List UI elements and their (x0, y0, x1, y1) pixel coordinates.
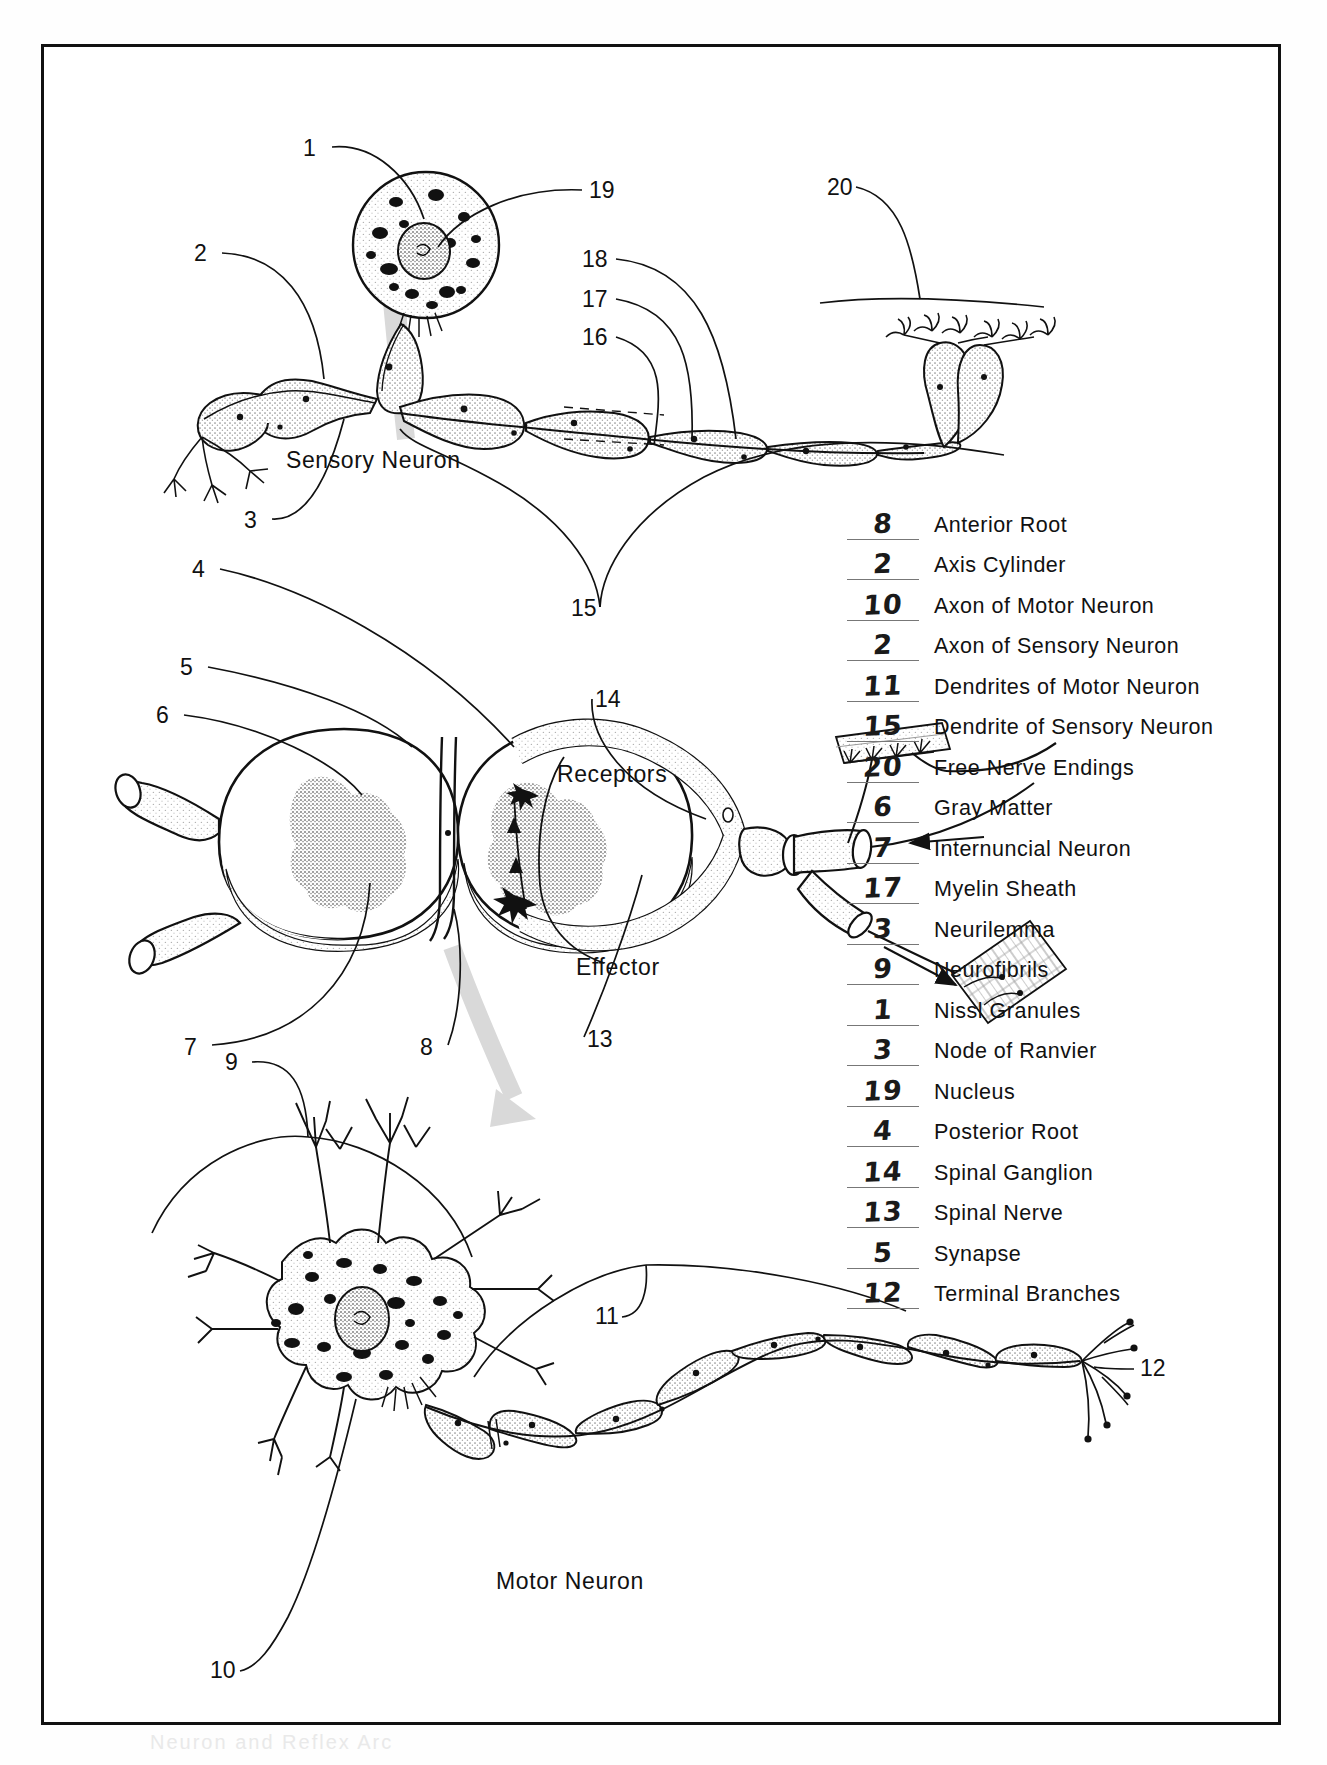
term-label: Node of Ranvier (922, 1039, 1097, 1069)
term-label: Spinal Nerve (922, 1201, 1063, 1231)
answer-row[interactable]: 4 Posterior Root (844, 1110, 1174, 1151)
answer-blank[interactable]: 10 (844, 590, 922, 624)
answer-row[interactable]: 9 Neurofibrils (844, 948, 1174, 989)
answer-row[interactable]: 2 Axis Cylinder (844, 543, 1174, 584)
answer-blank[interactable]: 17 (844, 873, 922, 907)
answer-value: 8 (843, 506, 923, 540)
answer-blank[interactable]: 1 (844, 995, 922, 1029)
nucleus-sensory (398, 223, 450, 279)
blank-rule (847, 701, 919, 702)
blank-rule (847, 539, 919, 540)
callout-7: 7 (184, 1034, 197, 1061)
answer-blank[interactable]: 6 (844, 792, 922, 826)
answer-blank[interactable]: 7 (844, 833, 922, 867)
blank-rule (847, 863, 919, 864)
answer-row[interactable]: 20 Free Nerve Endings (844, 745, 1174, 786)
sensory-axon-limb (400, 342, 1003, 465)
answer-value: 5 (843, 1235, 923, 1269)
term-label: Axis Cylinder (922, 553, 1066, 583)
term-label: Axon of Motor Neuron (922, 594, 1154, 624)
term-label: Dendrite of Sensory Neuron (922, 715, 1214, 745)
answer-blank[interactable]: 19 (844, 1076, 922, 1110)
blank-rule (847, 822, 919, 823)
callout-10: 10 (210, 1657, 236, 1684)
answer-blank[interactable]: 20 (844, 752, 922, 786)
answer-blank[interactable]: 5 (844, 1238, 922, 1272)
callout-9: 9 (225, 1049, 238, 1076)
answer-key-list: 8 Anterior Root 2 Axis Cylinder 10 Axon … (844, 502, 1174, 1312)
answer-value: 19 (843, 1073, 923, 1107)
answer-row[interactable]: 6 Gray Matter (844, 786, 1174, 827)
answer-row[interactable]: 1 Nissl Granules (844, 988, 1174, 1029)
answer-row[interactable]: 13 Spinal Nerve (844, 1191, 1174, 1232)
blank-rule (847, 1065, 919, 1066)
faint-footer-text: Neuron and Reflex Arc (150, 1731, 393, 1754)
answer-blank[interactable]: 2 (844, 630, 922, 664)
answer-blank[interactable]: 2 (844, 549, 922, 583)
term-label: Neurilemma (922, 918, 1055, 948)
flow-arrow-down (452, 947, 536, 1127)
answer-blank[interactable]: 14 (844, 1157, 922, 1191)
answer-blank[interactable]: 3 (844, 914, 922, 948)
answer-blank[interactable]: 8 (844, 509, 922, 543)
answer-value: 14 (843, 1154, 923, 1188)
answer-row[interactable]: 7 Internuncial Neuron (844, 826, 1174, 867)
callout-19: 19 (589, 177, 615, 204)
answer-value: 4 (843, 1114, 923, 1148)
answer-value: 1 (843, 992, 923, 1026)
blank-rule (847, 579, 919, 580)
answer-blank[interactable]: 12 (844, 1278, 922, 1312)
answer-row[interactable]: 12 Terminal Branches (844, 1272, 1174, 1313)
term-label: Spinal Ganglion (922, 1161, 1093, 1191)
answer-blank[interactable]: 4 (844, 1116, 922, 1150)
motor-neuron-caption: Motor Neuron (496, 1568, 644, 1595)
blank-rule (847, 1106, 919, 1107)
answer-value: 9 (843, 952, 923, 986)
term-label: Nissl Granules (922, 999, 1081, 1029)
term-label: Synapse (922, 1242, 1021, 1272)
callout-6: 6 (156, 702, 169, 729)
terminal-branches (1082, 1323, 1134, 1437)
blank-rule (847, 903, 919, 904)
callout-8: 8 (420, 1034, 433, 1061)
callout-1: 1 (303, 135, 316, 162)
answer-row[interactable]: 8 Anterior Root (844, 502, 1174, 543)
blank-rule (847, 984, 919, 985)
blank-rule (847, 660, 919, 661)
answer-row[interactable]: 17 Myelin Sheath (844, 867, 1174, 908)
callout-14: 14 (595, 686, 621, 713)
answer-value: 3 (843, 911, 923, 945)
callout-13: 13 (587, 1026, 613, 1053)
diagram-frame: 1 19 2 18 17 16 20 3 15 4 5 6 14 7 8 13 … (41, 44, 1281, 1725)
blank-rule (847, 620, 919, 621)
blank-rule (847, 1146, 919, 1147)
answer-blank[interactable]: 3 (844, 1035, 922, 1069)
answer-value: 17 (843, 871, 923, 905)
answer-row[interactable]: 15 Dendrite of Sensory Neuron (844, 705, 1174, 746)
term-label: Myelin Sheath (922, 877, 1077, 907)
answer-value: 13 (843, 1195, 923, 1229)
term-label: Axon of Sensory Neuron (922, 634, 1179, 664)
callout-12: 12 (1140, 1355, 1166, 1382)
term-label: Free Nerve Endings (922, 756, 1134, 786)
answer-row[interactable]: 11 Dendrites of Motor Neuron (844, 664, 1174, 705)
answer-blank[interactable]: 13 (844, 1197, 922, 1231)
answer-row[interactable]: 5 Synapse (844, 1231, 1174, 1272)
blank-rule (847, 741, 919, 742)
worksheet-page: 1 19 2 18 17 16 20 3 15 4 5 6 14 7 8 13 … (0, 0, 1327, 1765)
answer-row[interactable]: 2 Axon of Sensory Neuron (844, 624, 1174, 665)
blank-rule (847, 782, 919, 783)
answer-value: 2 (843, 628, 923, 662)
answer-row[interactable]: 19 Nucleus (844, 1069, 1174, 1110)
answer-blank[interactable]: 9 (844, 954, 922, 988)
answer-row[interactable]: 3 Neurilemma (844, 907, 1174, 948)
answer-blank[interactable]: 11 (844, 671, 922, 705)
answer-row[interactable]: 10 Axon of Motor Neuron (844, 583, 1174, 624)
answer-row[interactable]: 14 Spinal Ganglion (844, 1150, 1174, 1191)
sensory-dendrite-limb (164, 380, 377, 504)
answer-blank[interactable]: 15 (844, 711, 922, 745)
answer-value: 3 (843, 1033, 923, 1067)
answer-value: 11 (843, 668, 923, 702)
motor-axon-chain (425, 1333, 1082, 1459)
answer-row[interactable]: 3 Node of Ranvier (844, 1029, 1174, 1070)
